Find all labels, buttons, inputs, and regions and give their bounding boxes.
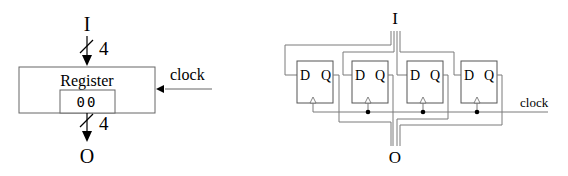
ff2-d-label: D	[355, 68, 365, 83]
clock-junction-dot	[421, 110, 426, 115]
flip-flop-1: D Q	[297, 61, 333, 103]
schematic-input-label: I	[392, 9, 398, 28]
ff2-q-label: Q	[375, 68, 385, 83]
clock-label: clock	[170, 66, 205, 83]
ff3-d-label: D	[410, 68, 420, 83]
clock-junction-dot	[475, 110, 480, 115]
output-bus-width: 4	[99, 113, 109, 134]
schematic-clock-label: clock	[520, 95, 549, 110]
register-value: 00	[77, 94, 98, 110]
flip-flop-4: D Q	[461, 61, 497, 103]
ff4-d-label: D	[464, 68, 474, 83]
input-bus-width: 4	[99, 38, 109, 59]
output-label: O	[80, 145, 94, 167]
ff1-q-label: Q	[321, 68, 331, 83]
input-arrow-icon	[82, 55, 92, 66]
register-title: Register	[60, 72, 114, 90]
input-label: I	[84, 13, 91, 35]
flip-flop-2: D Q	[352, 61, 388, 103]
clock-arrow-icon	[156, 85, 164, 93]
ff3-q-label: Q	[430, 68, 440, 83]
ff1-d-label: D	[300, 68, 310, 83]
register-block-diagram: I 4 Register 00 clock 4 O	[19, 13, 212, 167]
ff4-q-label: Q	[484, 68, 494, 83]
flip-flop-3: D Q	[407, 61, 443, 103]
schematic-output-label: O	[389, 148, 401, 167]
output-arrow-icon	[82, 131, 92, 142]
flip-flop-schematic: I D Q D Q D Q	[285, 9, 549, 167]
clock-junction-dot	[366, 110, 371, 115]
